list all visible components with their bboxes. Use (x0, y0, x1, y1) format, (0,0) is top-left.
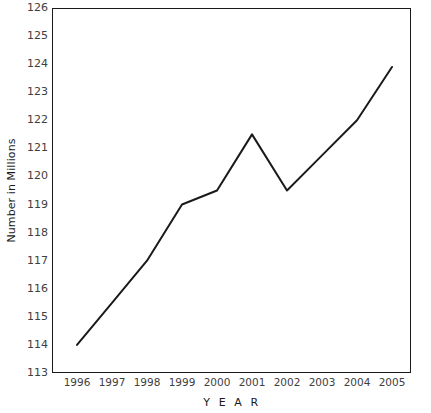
x-tick-label: 1997 (92, 377, 132, 388)
y-tick-label: 118 (6, 227, 48, 238)
x-tick-label: 1999 (162, 377, 202, 388)
x-tick-label: 2002 (267, 377, 307, 388)
x-tick-label: 2000 (197, 377, 237, 388)
y-tick-label: 114 (6, 339, 48, 350)
y-tick-label: 122 (6, 114, 48, 125)
x-axis-tick-labels: 1996199719981999200020012002200320042005 (0, 377, 431, 393)
x-tick-label: 1996 (57, 377, 97, 388)
y-tick-label: 115 (6, 311, 48, 322)
x-tick-label: 2001 (232, 377, 272, 388)
x-axis-title: Y E A R (52, 396, 412, 409)
data-line-series-1 (77, 67, 392, 345)
y-tick-label: 126 (6, 2, 48, 13)
x-tick-label: 2004 (337, 377, 377, 388)
x-tick-label: 2003 (302, 377, 342, 388)
x-tick-label: 2005 (372, 377, 412, 388)
y-tick-label: 117 (6, 255, 48, 266)
y-tick-label: 123 (6, 86, 48, 97)
y-tick-label: 119 (6, 199, 48, 210)
plot-area (52, 8, 411, 373)
chart-page: Number in Millions 113114115116117118119… (0, 0, 431, 413)
y-tick-label: 121 (6, 142, 48, 153)
y-axis-tick-labels: 1131141151161171181191201211221231241251… (0, 0, 48, 413)
y-tick-label: 120 (6, 170, 48, 181)
x-tick-label: 1998 (127, 377, 167, 388)
y-tick-label: 116 (6, 283, 48, 294)
y-tick-label: 125 (6, 30, 48, 41)
y-tick-label: 124 (6, 58, 48, 69)
